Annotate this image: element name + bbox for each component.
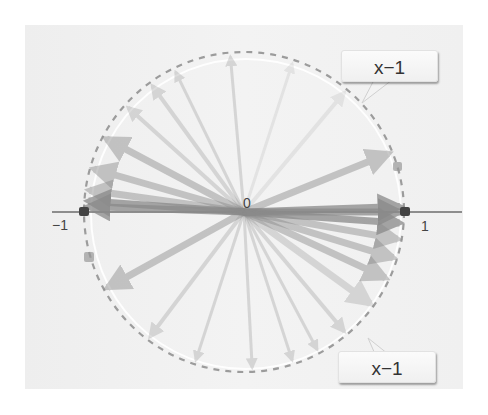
callout-bottom: x−1 xyxy=(338,351,436,383)
vector-arrow xyxy=(244,64,292,212)
marker-upper-right xyxy=(393,162,402,171)
vector-arrow xyxy=(244,154,389,212)
pos-one-label: 1 xyxy=(421,218,429,234)
marker-neg1 xyxy=(79,207,89,216)
origin-label: 0 xyxy=(243,195,251,211)
vector-arrow xyxy=(150,212,244,337)
neg-one-label: −1 xyxy=(52,217,68,233)
callout-top-pointer xyxy=(362,80,392,103)
callout-bottom-label: x−1 xyxy=(371,358,402,379)
marker-pos1 xyxy=(400,207,410,216)
callout-top-label: x−1 xyxy=(374,57,405,78)
callout-top: x−1 xyxy=(341,50,438,82)
marker-lower-left xyxy=(84,252,94,262)
